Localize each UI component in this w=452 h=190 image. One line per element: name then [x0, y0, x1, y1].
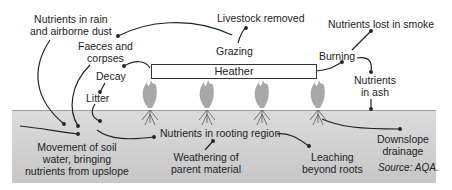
label-burning: Burning — [319, 50, 355, 62]
heather-plants — [142, 80, 326, 125]
label-line: Faeces and — [78, 40, 133, 52]
label-line: water, bringing — [25, 153, 129, 165]
label-line: Movement of soil — [25, 141, 129, 153]
label-nutrients-in-ash: Nutrients in ash — [354, 74, 396, 98]
label-decay: Decay — [96, 70, 126, 82]
label-line: corpses — [78, 52, 133, 64]
heather-box: Heather — [151, 64, 317, 79]
label-line: in ash — [354, 86, 396, 98]
label-line: Downslope — [377, 133, 429, 145]
label-line: Nutrients in rain — [30, 13, 112, 25]
source-credit: Source: AQA. — [378, 162, 439, 174]
label-nutrients-lost-smoke: Nutrients lost in smoke — [328, 18, 434, 30]
label-leaching: Leaching beyond roots — [302, 151, 363, 175]
label-line: Nutrients — [354, 74, 396, 86]
label-faeces-corpses: Faeces and corpses — [78, 40, 133, 64]
label-downslope-drainage: Downslope drainage — [377, 133, 429, 157]
nutrient-cycle-diagram: Heather Nutrients in rain and airborne d… — [0, 0, 452, 190]
label-line: nutrients from upslope — [25, 165, 129, 177]
label-litter: Litter — [86, 92, 109, 104]
label-weathering-parent-material: Weathering of parent material — [171, 151, 241, 175]
label-nutrients-rooting-region: Nutrients in rooting region — [160, 127, 280, 139]
label-line: and airborne dust — [30, 25, 112, 37]
label-livestock-removed: Livestock removed — [217, 12, 305, 24]
label-line: Leaching — [302, 151, 363, 163]
label-line: drainage — [377, 145, 429, 157]
label-line: beyond roots — [302, 163, 363, 175]
label-grazing: Grazing — [216, 45, 253, 57]
label-soil-water-movement: Movement of soil water, bringing nutrien… — [25, 141, 129, 177]
label-line: parent material — [171, 163, 241, 175]
label-rain-dust: Nutrients in rain and airborne dust — [30, 13, 112, 37]
label-line: Weathering of — [171, 151, 241, 163]
